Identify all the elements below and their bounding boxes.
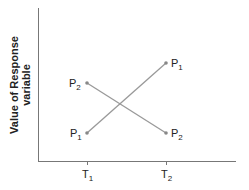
point-p1-t1 — [85, 131, 89, 135]
label-p2-t2: P2 — [171, 127, 183, 142]
x-tick-label-t1: T1 — [82, 168, 94, 183]
point-p2-t1 — [85, 81, 89, 85]
point-labels: P2 P1 P1 P2 — [69, 57, 183, 142]
x-tick-labels: T1 T2 — [82, 168, 173, 183]
x-tick-label-t2: T2 — [161, 168, 173, 183]
point-p1-t2 — [164, 61, 168, 65]
interaction-plot: T1 T2 P2 P1 P1 P2 — [0, 0, 249, 190]
series-p2-line — [87, 83, 166, 133]
axes — [38, 8, 236, 165]
label-p1-t2: P1 — [171, 57, 183, 72]
series-p1-line — [87, 63, 166, 133]
series-lines — [87, 63, 166, 133]
point-p2-t2 — [164, 131, 168, 135]
label-p1-t1: P1 — [70, 127, 82, 142]
label-p2-t1: P2 — [69, 77, 81, 92]
